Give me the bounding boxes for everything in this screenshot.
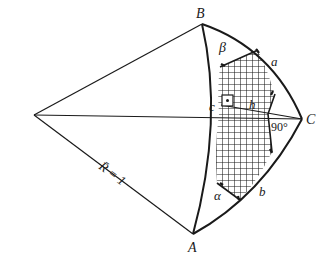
- angle-label-beta: β: [218, 40, 226, 55]
- spherical-triangle-diagram: B C A a b c β α h 90° R̄ = 1: [0, 0, 332, 272]
- vertex-label-a: A: [187, 240, 197, 255]
- vertex-label-b: B: [196, 6, 205, 21]
- vertex-label-c: C: [306, 112, 316, 127]
- right-angle-label: 90°: [271, 120, 288, 134]
- side-c-arc: [193, 24, 211, 234]
- side-label-c: c: [209, 99, 215, 114]
- right-angle-dot: [226, 99, 229, 102]
- side-label-a: a: [271, 54, 278, 69]
- side-label-b: b: [259, 184, 266, 199]
- hatched-region: [216, 50, 275, 200]
- angle-label-alpha: α: [214, 188, 222, 203]
- height-label-h: h: [249, 97, 256, 112]
- tick-mark: [238, 196, 239, 200]
- radius-ob: [34, 24, 202, 115]
- radius-label: R̄ = 1: [95, 158, 129, 188]
